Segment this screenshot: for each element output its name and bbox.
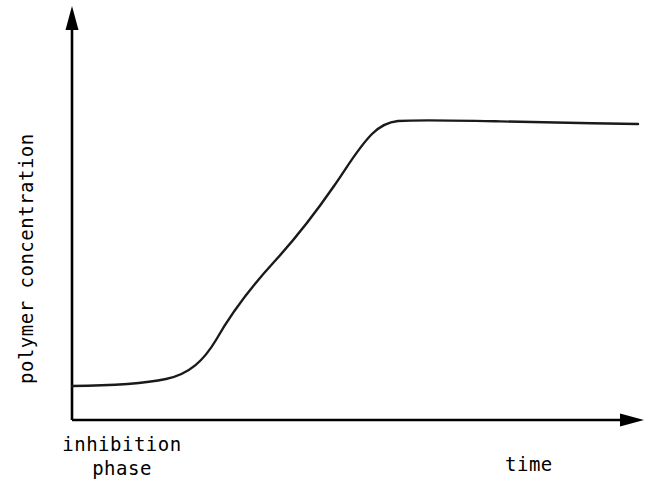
chart-canvas — [0, 0, 652, 501]
polymer-concentration-curve — [72, 120, 638, 386]
y-axis-arrowhead — [66, 6, 79, 30]
inhibition-phase-line-1: inhibition — [62, 433, 181, 455]
chart-figure: polymer concentration time inhibitionpha… — [0, 0, 652, 501]
inhibition-phase-annotation: inhibitionphase — [48, 432, 196, 480]
y-axis-label: polymer concentration — [14, 44, 40, 384]
x-axis-arrowhead — [620, 414, 644, 427]
x-axis-label: time — [505, 452, 553, 476]
inhibition-phase-line-2: phase — [48, 456, 196, 480]
